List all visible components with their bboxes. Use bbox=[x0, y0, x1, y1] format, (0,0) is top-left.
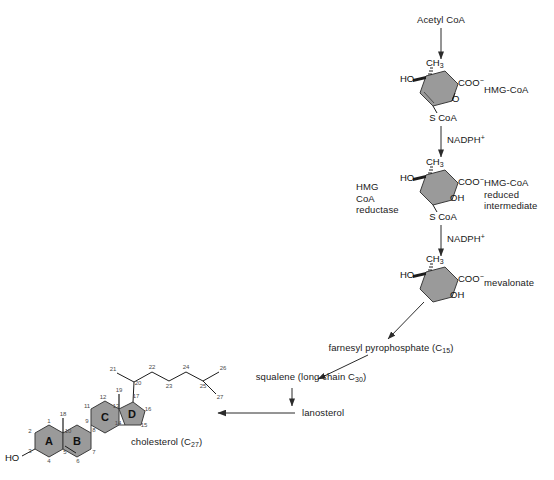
atom-carboxylate-reduced: COO− bbox=[458, 176, 484, 187]
carbon-number-14: 14 bbox=[115, 420, 122, 426]
atom-hydroxyl-cholesterol: HO bbox=[5, 452, 19, 463]
carbon-number-1: 1 bbox=[47, 418, 50, 424]
carbon-number-6: 6 bbox=[76, 458, 79, 464]
carbon-number-16: 16 bbox=[145, 406, 152, 412]
atom-carboxylate-mevalonate: COO− bbox=[458, 273, 484, 284]
atom-methyl-hmgcoa: CH3 bbox=[426, 57, 444, 69]
bond-methyl-26 bbox=[203, 372, 219, 381]
carbon-number-23: 23 bbox=[166, 383, 173, 389]
atom-methyl-reduced: CH3 bbox=[426, 156, 444, 168]
carbon-number-5: 5 bbox=[63, 449, 66, 455]
label-mevalonate: mevalonate bbox=[484, 277, 534, 289]
arrow-mevalonate-to-farnesyl bbox=[388, 302, 424, 339]
label-nadph-2: NADPH+ bbox=[447, 231, 485, 245]
atom-hydroxyl-right-reduced: OH bbox=[450, 192, 464, 203]
atom-hydroxyl-reduced: HO bbox=[400, 172, 414, 183]
label-hmg-coa: HMG-CoA bbox=[484, 84, 529, 96]
carbon-number-21: 21 bbox=[110, 366, 117, 372]
carbon-number-13: 13 bbox=[113, 403, 120, 409]
carbon-number-8: 8 bbox=[92, 427, 95, 433]
ring-letter-c: C bbox=[101, 411, 109, 423]
structure-hmg-coa-reduced bbox=[413, 167, 458, 212]
atom-carboxylate-hmgcoa: COO− bbox=[458, 77, 484, 88]
carbon-number-22: 22 bbox=[149, 364, 156, 370]
carbon-number-4: 4 bbox=[47, 458, 50, 464]
atom-thioester-hmgcoa: S CoA bbox=[429, 112, 456, 123]
carbon-number-9: 9 bbox=[85, 418, 88, 424]
cholesterol-biosynthesis-figure: Acetyl CoA HO CH3 COO− O S CoA HMG-CoA N… bbox=[0, 0, 554, 480]
atom-ring-oxygen-hmgcoa: O bbox=[452, 93, 459, 104]
carbon-number-24: 24 bbox=[183, 364, 190, 370]
label-hmg-coa-reduced-intermediate: HMG-CoA reduced intermediate bbox=[484, 177, 550, 212]
carbon-number-26: 26 bbox=[220, 365, 227, 371]
carbon-number-18: 18 bbox=[60, 411, 67, 417]
ring-letter-a: A bbox=[45, 435, 53, 447]
carbon-number-3: 3 bbox=[28, 448, 31, 454]
label-squalene: squalene (long chain C30) bbox=[256, 371, 367, 386]
carbon-number-11: 11 bbox=[84, 403, 90, 409]
carbon-number-10: 10 bbox=[65, 428, 72, 434]
carbon-number-17: 17 bbox=[133, 393, 140, 399]
carbon-number-2: 2 bbox=[28, 428, 31, 434]
label-hmg-coa-reductase: HMG CoA reductase bbox=[356, 181, 402, 216]
ring-letter-d: D bbox=[128, 408, 136, 420]
structure-hmg-coa bbox=[413, 68, 458, 113]
ring-letter-b: B bbox=[73, 435, 81, 447]
atom-hydroxyl-hmgcoa: HO bbox=[400, 73, 414, 84]
atom-hydroxyl-right-mevalonate: OH bbox=[450, 289, 464, 300]
carbon-number-12: 12 bbox=[100, 394, 107, 400]
carbon-number-25: 25 bbox=[200, 383, 207, 389]
label-nadph-1: NADPH+ bbox=[447, 132, 485, 146]
carbon-number-19: 19 bbox=[116, 387, 123, 393]
carbon-number-7: 7 bbox=[92, 449, 95, 455]
atom-thioester-reduced: S CoA bbox=[429, 211, 456, 222]
atom-hydroxyl-mevalonate: HO bbox=[400, 269, 414, 280]
atom-methyl-mevalonate: CH3 bbox=[426, 253, 444, 265]
carbon-number-20: 20 bbox=[135, 380, 142, 386]
label-farnesyl-pyrophosphate: farnesyl pyrophosphate (C15) bbox=[328, 342, 453, 357]
carbon-number-27: 27 bbox=[217, 394, 224, 400]
label-acetyl-coa: Acetyl CoA bbox=[417, 14, 465, 26]
label-lanosterol: lanosterol bbox=[302, 407, 344, 419]
bond-methyl-21 bbox=[117, 373, 134, 382]
label-cholesterol: cholesterol (C27) bbox=[131, 436, 202, 451]
carbon-number-15: 15 bbox=[141, 422, 148, 428]
